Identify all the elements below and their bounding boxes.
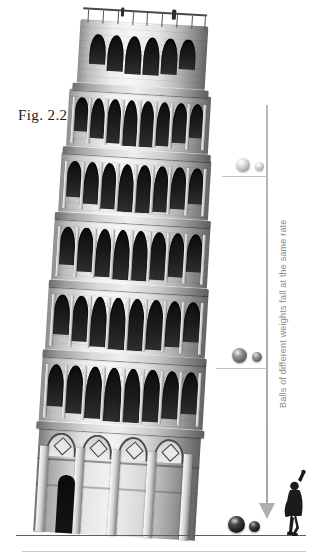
- leaning-tower-of-pisa: [28, 0, 231, 541]
- drop-stage-2-small-ball: [252, 352, 262, 362]
- tower-doorway: [55, 475, 75, 534]
- tower-base-plinth: [33, 427, 201, 540]
- down-arrow-icon: [259, 503, 275, 519]
- tower-top-person-icon: [121, 8, 125, 17]
- blind-arch: [153, 438, 184, 464]
- experiment-caption: Balls of different weights fall at the s…: [278, 0, 288, 168]
- drop-stage-3-small-ball: [249, 521, 260, 532]
- tower-photo: [0, 0, 232, 538]
- drop-stage-1-small-ball: [255, 162, 264, 171]
- fall-path-axis: [266, 105, 268, 506]
- drop-stage-1-big-ball: [236, 158, 250, 172]
- drop-stage-1-tick: [222, 176, 267, 177]
- tower-arcade-3: [48, 294, 205, 355]
- blind-arch: [46, 432, 77, 458]
- tower-top-person-icon: [172, 10, 177, 20]
- figure-container: Fig. 2.2: [0, 0, 324, 559]
- drop-stage-3-big-ball: [228, 516, 245, 533]
- tower-arcade-2: [42, 364, 203, 427]
- page-rule: [22, 551, 306, 552]
- tower-arcade-6: [69, 97, 207, 151]
- blind-arch: [82, 434, 113, 460]
- tower-arcade-belfry: [85, 34, 199, 81]
- tower-arcade-4: [54, 226, 207, 285]
- tower-arcade-5: [61, 160, 208, 216]
- blind-arch: [118, 436, 149, 462]
- observer-figure: [281, 466, 311, 536]
- ground-line: [16, 535, 306, 536]
- experiment-caption-text: Balls of different weights fall at the s…: [278, 219, 288, 408]
- drop-stage-2-tick: [216, 368, 267, 369]
- drop-stage-2-big-ball: [232, 348, 247, 363]
